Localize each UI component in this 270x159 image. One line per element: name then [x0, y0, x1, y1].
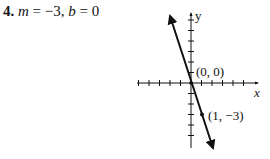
point-label-1-neg3: (1, −3) — [208, 108, 244, 123]
line-graph: y x (0, 0) (1, −3) — [0, 0, 270, 159]
y-axis-label: y — [195, 8, 202, 23]
point-origin — [189, 81, 193, 85]
x-axis-label: x — [253, 85, 260, 100]
point-label-origin: (0, 0) — [196, 64, 224, 79]
point-1-neg3 — [200, 113, 204, 117]
